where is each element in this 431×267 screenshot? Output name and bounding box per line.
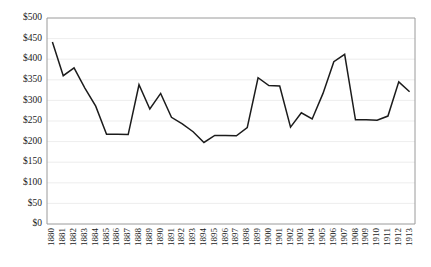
x-axis-tick-label: 1882 <box>68 228 78 246</box>
x-axis-tick-label: 1903 <box>295 228 305 247</box>
y-axis-tick-label: $400 <box>23 53 42 63</box>
x-axis-tick-label: 1883 <box>79 228 89 247</box>
y-axis-tick-label: $150 <box>23 156 42 166</box>
x-axis-tick-label: 1895 <box>209 228 219 247</box>
x-axis-tick-label: 1905 <box>317 228 327 247</box>
y-axis-tick-label: $250 <box>23 115 42 125</box>
x-axis-tick-label: 1898 <box>241 228 251 247</box>
x-axis-tick-label: 1908 <box>350 228 360 247</box>
x-axis-tick-label: 1893 <box>187 228 197 247</box>
x-axis-tick-label: 1900 <box>263 228 273 247</box>
x-axis-tick-label: 1881 <box>57 228 67 246</box>
x-axis-tick-label: 1901 <box>274 228 284 246</box>
y-axis-tick-label: $200 <box>23 136 42 146</box>
x-axis-tick-label: 1889 <box>144 228 154 247</box>
x-axis-tick-label: 1912 <box>393 228 403 246</box>
y-axis-tick-label: $450 <box>23 33 42 43</box>
x-axis-tick-labels: 1880188118821883188418851886188718881889… <box>46 228 413 247</box>
x-axis-tick-label: 1888 <box>133 228 143 247</box>
x-axis-tick-label: 1890 <box>155 228 165 247</box>
x-axis-tick-label: 1911 <box>382 228 392 246</box>
x-axis-tick-label: 1907 <box>339 228 349 247</box>
x-axis-tick-label: 1909 <box>360 228 370 247</box>
y-axis-tick-label: $0 <box>33 218 43 228</box>
x-axis-tick-label: 1899 <box>252 228 262 247</box>
x-axis-tick-label: 1884 <box>90 228 100 247</box>
x-axis-tick-label: 1913 <box>404 228 414 247</box>
y-axis-tick-label: $100 <box>23 177 42 187</box>
x-axis-tick-label: 1887 <box>122 228 132 247</box>
x-axis-tick-label: 1894 <box>198 228 208 247</box>
y-axis-tick-label: $50 <box>28 198 43 208</box>
y-axis-tick-label: $300 <box>23 95 42 105</box>
x-axis-tick-label: 1910 <box>371 228 381 247</box>
x-axis-tick-label: 1906 <box>328 228 338 247</box>
x-axis-tick-label: 1897 <box>230 228 240 247</box>
x-axis-tick-label: 1891 <box>166 228 176 246</box>
x-axis-tick-label: 1885 <box>101 228 111 247</box>
x-axis-tick-label: 1892 <box>176 228 186 246</box>
x-axis-tick-label: 1904 <box>306 228 316 247</box>
x-axis-tick-label: 1896 <box>220 228 230 247</box>
x-axis-tick-label: 1886 <box>111 228 121 247</box>
y-axis-tick-label: $350 <box>23 74 42 84</box>
x-axis-tick-label: 1880 <box>46 228 56 247</box>
chart-background <box>0 0 431 267</box>
chart-canvas: $0$50$100$150$200$250$300$350$400$450$50… <box>0 0 431 267</box>
y-axis-tick-label: $500 <box>23 12 42 22</box>
line-chart-figure: $0$50$100$150$200$250$300$350$400$450$50… <box>0 0 431 267</box>
x-axis-tick-label: 1902 <box>285 228 295 246</box>
